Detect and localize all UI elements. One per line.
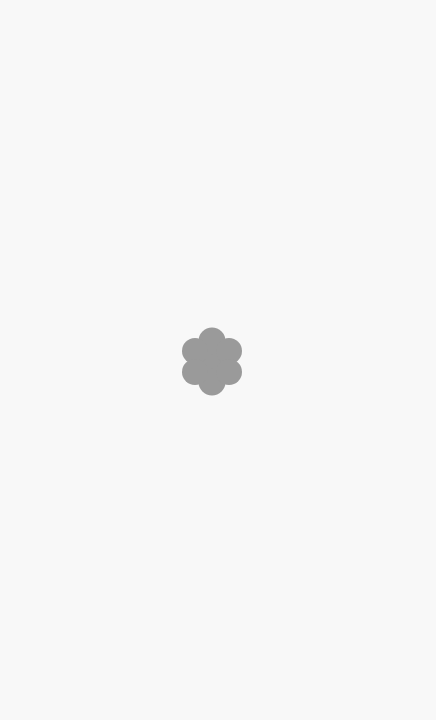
loading-screen [0,0,436,720]
loading-label [181,396,182,397]
loading-spinner [181,327,243,396]
flower-spinner-icon [181,327,243,396]
